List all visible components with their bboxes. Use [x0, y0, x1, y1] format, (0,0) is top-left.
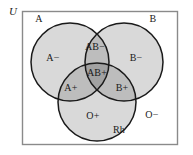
region-b-plus: B+	[116, 83, 129, 93]
universe-label: U	[9, 6, 17, 17]
set-label-b: B	[150, 14, 157, 24]
region-o-plus: O+	[86, 111, 99, 121]
region-a-minus: A−	[46, 53, 59, 63]
region-o-minus: O−	[145, 110, 158, 120]
set-label-a: A	[35, 14, 42, 24]
venn-diagram-figure: U A B Rh A− AB− B− AB+ A+ B+ O+ O−	[0, 0, 193, 155]
region-b-minus: B−	[130, 53, 143, 63]
region-a-plus: A+	[64, 83, 77, 93]
region-ab-plus: AB+	[87, 68, 107, 78]
region-ab-minus: AB−	[85, 42, 105, 52]
set-label-rh: Rh	[113, 125, 125, 135]
